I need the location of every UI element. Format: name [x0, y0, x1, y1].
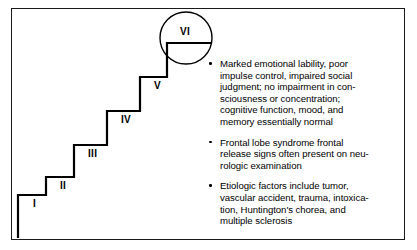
bullet-etiologic-factors: Etiologic factors include tumor, vascula… — [208, 180, 398, 226]
bullet-dot-icon — [209, 184, 212, 187]
step-label-i: I — [33, 199, 36, 209]
figure-root: I II III IV V VI Marked emotional labili… — [0, 0, 417, 250]
bullet-clinical-features: Marked emotional lability, poor impulse … — [208, 58, 398, 128]
bullet-text: Etiologic factors include tumor, vascula… — [220, 180, 398, 226]
step-label-iv: IV — [121, 115, 131, 125]
bullet-text: Marked emotional lability, poor impulse … — [220, 58, 398, 128]
bullet-dot-icon — [209, 141, 212, 144]
bullet-dot-icon — [209, 62, 212, 65]
bullet-list: Marked emotional lability, poor impulse … — [208, 58, 398, 227]
step-label-iii: III — [88, 149, 97, 159]
step-label-v: V — [154, 81, 161, 91]
step-label-vi: VI — [180, 27, 190, 37]
bullet-text: Frontal lobe syndrome frontal release si… — [220, 137, 398, 172]
step-label-ii: II — [60, 181, 66, 191]
bullet-frontal-lobe-signs: Frontal lobe syndrome frontal release si… — [208, 137, 398, 172]
